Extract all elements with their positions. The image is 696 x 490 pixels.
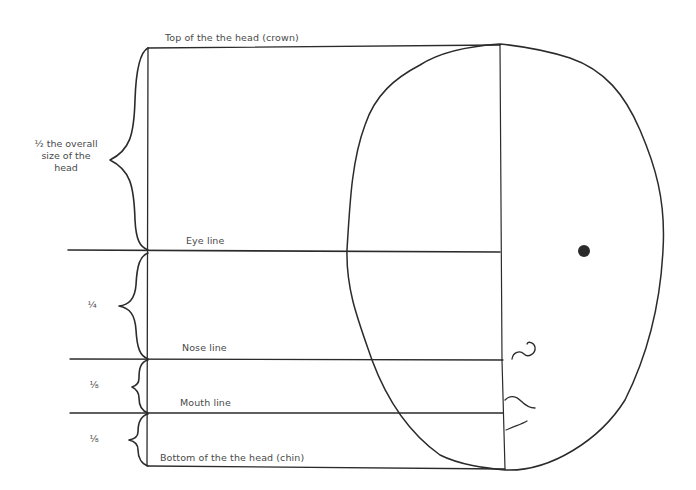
crown-line [148,45,500,48]
half-head-label: ½ the overall size of the head [30,138,102,174]
head-proportion-drawing [0,0,696,490]
chin-line [148,466,505,469]
half-head-label-line-2: size of the [30,150,102,162]
head-outline [347,44,664,470]
left-vertical-line [147,48,148,466]
half-head-label-line-1: ½ the overall [30,138,102,150]
eye-line-label: Eye line [186,235,224,246]
eye-line [68,250,500,252]
mouth-line-label: Mouth line [180,397,231,408]
center-vertical-line [500,45,505,469]
eighth-label-mouth-chin: ⅛ [86,433,102,445]
nose-line-label: Nose line [182,342,227,353]
eye-dot [578,245,590,257]
half-head-label-line-3: head [30,162,102,174]
quarter-label: ¼ [84,299,100,311]
eighth-label-nose-mouth: ⅛ [86,379,102,391]
chin-line-label: Bottom of the the head (chin) [160,452,304,463]
mouth-squiggle [505,397,535,408]
crown-line-label: Top of the the head (crown) [165,32,299,43]
bracket-crown-to-eye [110,48,148,250]
nose-line [70,359,503,360]
bracket-eye-to-nose [119,253,148,359]
bracket-mouth-to-chin [129,414,148,466]
nose-squiggle [512,342,535,359]
bracket-nose-to-mouth [132,360,148,413]
chin-curve [506,421,527,430]
